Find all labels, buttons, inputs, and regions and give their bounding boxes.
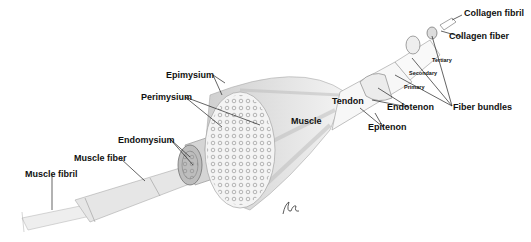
label-epitenon: Epitenon [368,123,407,132]
label-muscle-fibril: Muscle fibril [25,170,78,179]
label-collagen-fiber: Collagen fiber [449,32,509,41]
label-fiber-bundles: Fiber bundles [453,103,512,112]
label-tertiary: Tertiary [432,58,452,64]
signature-mark [283,202,299,214]
label-muscle: Muscle [291,117,322,126]
label-epimysium: Epimysium [166,71,214,80]
muscle-cone-shape [205,77,345,210]
label-secondary: Secondary [409,71,437,77]
label-muscle-fiber: Muscle fiber [74,154,127,163]
label-endotenon: Endotenon [387,103,434,112]
label-endomysium: Endomysium [118,136,175,145]
label-collagen-fibril: Collagen fibril [464,9,524,18]
label-tendon: Tendon [332,97,364,106]
label-perimysium: Perimysium [141,93,192,102]
label-primary: Primary [404,85,425,91]
